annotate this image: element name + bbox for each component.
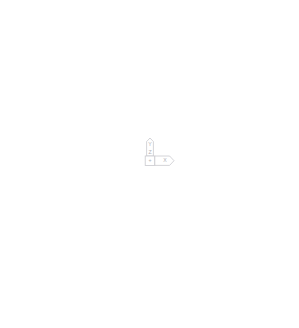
mesh-viewport[interactable]: Y Z + X — [0, 0, 299, 328]
mesh-canvas[interactable]: Y Z + X — [0, 0, 299, 328]
triad-y-label: Y — [148, 141, 152, 147]
triad-origin-label: + — [148, 157, 151, 163]
axis-triad[interactable]: Y Z + X — [145, 138, 174, 165]
triad-z-label: Z — [148, 149, 151, 155]
triad-x-label: X — [163, 157, 167, 163]
